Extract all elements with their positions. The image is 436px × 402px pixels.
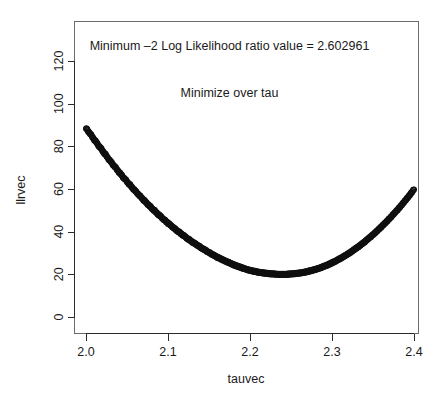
llr-profile-chart: 2.02.12.22.32.4 020406080100120 Minimum … [0, 0, 436, 402]
x-tick-label: 2.3 [323, 345, 340, 359]
x-tick-label: 2.4 [405, 345, 422, 359]
annotation-line-1: Minimum –2 Log Likelihood ratio value = … [90, 39, 370, 53]
y-tick-label: 80 [52, 139, 66, 153]
y-tick-label: 20 [52, 267, 66, 281]
x-tick-label: 2.0 [77, 345, 94, 359]
y-tick-label: 40 [52, 225, 66, 239]
x-tick-label: 2.1 [159, 345, 176, 359]
x-axis-title: tauvec [228, 372, 265, 386]
y-tick-label: 120 [52, 51, 66, 72]
x-tick-label: 2.2 [241, 345, 258, 359]
plot-page: 2.02.12.22.32.4 020406080100120 Minimum … [0, 0, 436, 402]
y-axis-title: llrvec [14, 175, 28, 204]
y-tick-label: 100 [52, 93, 66, 114]
y-tick-label: 0 [52, 313, 66, 320]
y-tick-label: 60 [52, 182, 66, 196]
annotation-line-2: Minimize over tau [181, 86, 279, 100]
